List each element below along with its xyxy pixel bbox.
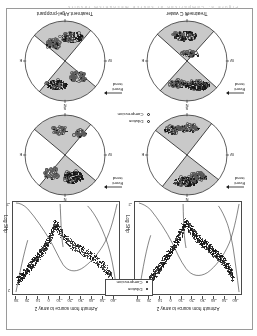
scatter-left-ylabel: Log SHp [125, 215, 130, 233]
scatter-right-xlabel: Azimuth from source to array 2 [12, 306, 120, 311]
stereonet-point [64, 87, 66, 89]
stereonet-point [184, 83, 186, 85]
scatter-point [45, 253, 46, 254]
scatter-point [227, 271, 228, 272]
stereonet-point [79, 136, 81, 138]
scatter-point [20, 276, 21, 277]
scatter-point [155, 271, 156, 272]
scatter-point [154, 278, 155, 279]
stereonet-point [197, 55, 199, 57]
scatter-point [58, 234, 59, 235]
scatter-point [29, 267, 30, 268]
scatter-point [71, 239, 72, 240]
scatter-point [59, 233, 60, 234]
scatter-point [218, 253, 219, 254]
stereonet-water-bottom: NESWEventtrendTreatment C water [128, 11, 246, 107]
scatter-point [82, 255, 83, 256]
xtick: -30 [78, 299, 84, 304]
stereonet-point [190, 178, 192, 180]
scatter-point [177, 242, 178, 243]
scatter-point [202, 246, 203, 247]
scatter-point [40, 259, 41, 260]
stereonet-point [171, 133, 173, 135]
xtick: -60 [111, 299, 117, 304]
scatter-point [231, 275, 232, 276]
scatter-point [57, 226, 58, 227]
scatter-point [75, 249, 76, 250]
stereonet-point [177, 38, 181, 42]
scatter-point [59, 226, 60, 227]
xtick: 20 [147, 299, 151, 304]
stereonet-point [44, 82, 48, 86]
stereonet-point [54, 84, 56, 86]
scatter-point [22, 278, 23, 279]
scatter-point [187, 220, 188, 221]
scatter-point [151, 274, 152, 275]
scatter-point [206, 249, 207, 250]
scatter-point [197, 242, 198, 243]
scatter-point [196, 231, 197, 232]
scatter-point [202, 243, 203, 244]
scatter-point [23, 275, 24, 276]
scatter-point [154, 272, 155, 273]
scatter-point [23, 270, 24, 271]
xtick: 0 [48, 299, 50, 304]
scatter-point [31, 270, 32, 271]
scatter-right-plotarea [12, 201, 120, 295]
legend-scatter: Dilation Compression [105, 279, 153, 296]
stereonet-gel-top: NESWEventtrend [6, 101, 124, 201]
scatter-point [68, 236, 69, 237]
scatter-point [72, 243, 73, 244]
scatter-point [211, 252, 212, 253]
scatter-point [93, 260, 94, 261]
stereonet-point [52, 42, 54, 44]
compressional-quadrant [155, 115, 211, 155]
scatter-point [212, 255, 213, 256]
scatter-panel-gel: Azimuth from source to array 2 -60 -50 -… [12, 201, 120, 311]
scatter-point [97, 258, 98, 259]
scatter-point [104, 266, 105, 267]
stereonet-point [76, 32, 78, 34]
ytick: -2 [6, 203, 10, 208]
cardinal-label-west: W [108, 153, 112, 158]
scatter-point [223, 261, 224, 262]
xtick: 30 [14, 299, 18, 304]
compression-marker-icon [145, 281, 149, 285]
scatter-point [192, 236, 193, 237]
scatter-point [157, 268, 158, 269]
xtick: -20 [67, 299, 73, 304]
stereonet-gel-bottom: NESWEventtrendTreatment A gel-proppant [6, 11, 124, 107]
scatter-point [32, 261, 33, 262]
stereonet-point [51, 179, 53, 181]
stereonet-point [188, 33, 192, 37]
scatter-point [53, 235, 54, 236]
stereonet-point [75, 181, 77, 183]
scatter-point [58, 222, 59, 223]
stereonet-point [60, 131, 64, 135]
scatter-point [212, 254, 213, 255]
xtick: -50 [222, 299, 228, 304]
stereonet-point [79, 130, 83, 134]
scatter-point [213, 257, 214, 258]
scatter-point [79, 250, 80, 251]
stereonet-point [181, 82, 183, 84]
scatter-point [35, 264, 36, 265]
scatter-point [29, 272, 30, 273]
scatter-point [198, 235, 199, 236]
stereonet-point [85, 133, 87, 135]
stereonet-point [203, 89, 205, 91]
scatter-point [48, 242, 49, 243]
stereonet-point [194, 36, 196, 38]
scatter-left-xticks: -60 -50 -40 -30 -20 -10 0 10 20 30 [134, 297, 242, 304]
scatter-point [167, 255, 168, 256]
scatter-point [63, 239, 64, 240]
scatter-point [213, 253, 214, 254]
scatter-point [194, 229, 195, 230]
scatter-point [162, 265, 163, 266]
figure-frame: Azimuth from source to array 2 -60 -50 -… [6, 8, 253, 330]
scatter-point [39, 254, 40, 255]
dilation-marker-icon [145, 288, 149, 292]
stereonet-panel-title: Treatment C water [128, 11, 246, 17]
stereonet-point [197, 128, 199, 130]
stereonet-point [73, 172, 75, 174]
